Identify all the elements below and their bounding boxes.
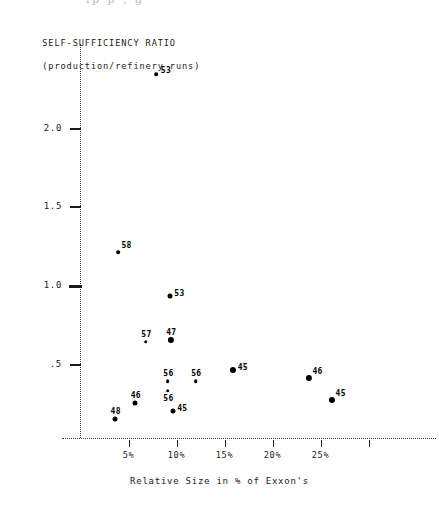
x-tick-20 <box>273 440 274 447</box>
data-point <box>166 389 170 393</box>
y-tick-label-2.0: 2.0 <box>44 123 62 133</box>
y-tick-1.0 <box>69 285 82 288</box>
data-point-label: 45 <box>177 404 187 413</box>
data-point-label: 53 <box>174 289 184 298</box>
data-point-label: 57 <box>141 330 151 339</box>
x-tick-15 <box>225 440 226 447</box>
y-axis-title: SELF-SUFFICIENCY RATIO (production/refin… <box>18 26 200 84</box>
data-point-label: 46 <box>131 391 141 400</box>
data-point <box>170 409 175 414</box>
data-point <box>116 250 120 254</box>
x-axis-line <box>62 438 436 439</box>
x-tick-30 <box>369 440 370 447</box>
top-cropped-text: ip p , g <box>86 0 145 6</box>
y-tick-label-1.5: 1.5 <box>44 201 62 211</box>
data-point-label: 46 <box>312 367 322 376</box>
data-point-label: 47 <box>166 328 176 337</box>
data-point <box>306 375 312 381</box>
top-cropped-text-strip: ip p , g <box>0 0 439 10</box>
data-point <box>230 367 236 373</box>
scatter-plot-figure: ip p , g SELF-SUFFICIENCY RATIO (product… <box>0 0 439 505</box>
x-tick-label-25%: 25% <box>312 450 329 460</box>
data-point-label: 53 <box>161 66 171 75</box>
y-axis-title-line2: (production/refinery runs) <box>42 61 200 71</box>
data-point-label: 45 <box>238 363 248 372</box>
y-axis-title-line1: SELF-SUFFICIENCY RATIO <box>42 38 176 48</box>
data-point <box>155 72 159 76</box>
data-point-label: 56 <box>163 369 173 378</box>
data-point-label: 58 <box>121 241 131 250</box>
x-tick-10 <box>177 440 178 447</box>
y-tick-2.0 <box>70 128 81 130</box>
y-tick-label-.5: .5 <box>50 359 62 369</box>
data-point-label: 48 <box>111 407 121 416</box>
data-point <box>113 416 118 421</box>
x-axis-title: Relative Size in % of Exxon's <box>0 476 439 486</box>
x-tick-label-5%: 5% <box>123 450 135 460</box>
data-point-label: 56 <box>191 369 201 378</box>
data-point <box>194 379 198 383</box>
x-tick-label-10%: 10% <box>168 450 185 460</box>
x-tick-label-15%: 15% <box>216 450 233 460</box>
data-point <box>144 340 148 344</box>
data-point-label: 45 <box>336 389 346 398</box>
x-tick-label-20%: 20% <box>264 450 281 460</box>
data-point <box>166 379 170 383</box>
y-tick-.5 <box>70 364 81 366</box>
data-point-label: 56 <box>163 394 173 403</box>
data-point <box>133 401 138 406</box>
y-axis-line <box>80 44 81 438</box>
x-tick-25 <box>321 440 322 447</box>
data-point <box>329 397 335 403</box>
data-point <box>168 337 174 343</box>
y-tick-label-1.0: 1.0 <box>44 280 62 290</box>
y-tick-1.5 <box>70 206 81 208</box>
data-point <box>167 294 172 299</box>
x-tick-5 <box>129 440 130 447</box>
